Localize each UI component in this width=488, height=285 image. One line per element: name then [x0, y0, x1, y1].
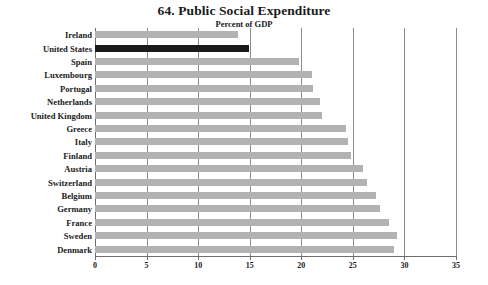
bar-united-kingdom	[95, 112, 322, 119]
category-label-ireland: Ireland	[0, 30, 92, 40]
tick-mark-5	[147, 256, 148, 260]
x-tick-label-20: 20	[289, 261, 313, 270]
bar-belgium	[95, 192, 376, 199]
category-label-united-states: United States	[0, 44, 92, 54]
bar-row	[95, 242, 456, 255]
x-axis-line	[95, 256, 456, 257]
bar-italy	[95, 138, 348, 145]
category-label-belgium: Belgium	[0, 191, 92, 201]
bar-row	[95, 202, 456, 215]
bar-row	[95, 216, 456, 229]
chart-figure: 64. Public Social Expenditure Percent of…	[0, 0, 488, 285]
bar-luxembourg	[95, 71, 312, 78]
bar-row	[95, 28, 456, 41]
bar-row	[95, 55, 456, 68]
x-tick-label-35: 35	[444, 261, 468, 270]
tick-mark-30	[404, 256, 405, 260]
tick-mark-35	[456, 256, 457, 260]
bar-row	[95, 149, 456, 162]
bar-row	[95, 122, 456, 135]
tick-mark-25	[353, 256, 354, 260]
gridline-35	[456, 28, 457, 256]
tick-mark-20	[301, 256, 302, 260]
category-label-switzerland: Switzerland	[0, 178, 92, 188]
x-tick-label-15: 15	[238, 261, 262, 270]
bar-germany	[95, 205, 380, 212]
x-tick-label-10: 10	[186, 261, 210, 270]
bar-switzerland	[95, 179, 367, 186]
bar-row	[95, 82, 456, 95]
bar-denmark	[95, 246, 394, 253]
bar-france	[95, 219, 389, 226]
bar-row	[95, 175, 456, 188]
bar-spain	[95, 58, 299, 65]
bar-row	[95, 68, 456, 81]
bar-austria	[95, 165, 363, 172]
bar-portugal	[95, 85, 313, 92]
category-label-portugal: Portugal	[0, 84, 92, 94]
category-label-denmark: Denmark	[0, 245, 92, 255]
bar-row	[95, 189, 456, 202]
category-label-france: France	[0, 218, 92, 228]
tick-mark-10	[198, 256, 199, 260]
category-label-sweden: Sweden	[0, 231, 92, 241]
bar-row	[95, 229, 456, 242]
category-label-greece: Greece	[0, 124, 92, 134]
category-label-netherlands: Netherlands	[0, 97, 92, 107]
category-label-finland: Finland	[0, 151, 92, 161]
bar-netherlands	[95, 98, 320, 105]
tick-mark-15	[250, 256, 251, 260]
category-label-austria: Austria	[0, 164, 92, 174]
plot-area	[95, 28, 456, 256]
category-label-spain: Spain	[0, 57, 92, 67]
bar-finland	[95, 152, 351, 159]
bar-row	[95, 135, 456, 148]
bar-row	[95, 95, 456, 108]
chart-title: 64. Public Social Expenditure	[0, 3, 488, 18]
title-block: 64. Public Social Expenditure Percent of…	[0, 3, 488, 29]
bar-greece	[95, 125, 346, 132]
tick-mark-0	[95, 256, 96, 260]
bar-row	[95, 108, 456, 121]
category-label-germany: Germany	[0, 204, 92, 214]
x-tick-label-30: 30	[392, 261, 416, 270]
bar-ireland	[95, 31, 238, 38]
x-tick-label-5: 5	[135, 261, 159, 270]
category-label-italy: Italy	[0, 137, 92, 147]
bar-row	[95, 162, 456, 175]
category-label-united-kingdom: United Kingdom	[0, 111, 92, 121]
bar-united-states	[95, 45, 249, 52]
bar-sweden	[95, 232, 397, 239]
bar-row	[95, 41, 456, 54]
x-tick-label-0: 0	[83, 261, 107, 270]
x-tick-label-25: 25	[341, 261, 365, 270]
category-label-luxembourg: Luxembourg	[0, 70, 92, 80]
